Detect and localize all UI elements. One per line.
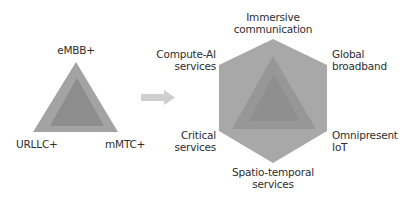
label-global-broadband: Global broadband [332,48,387,72]
label-spatio-temporal-services: Spatio-temporal services [223,166,323,190]
label-line: services [160,141,216,153]
label-line: Omnipresent [332,129,398,141]
label-line: communication [228,23,318,35]
label-mmtc-text: mMTC+ [105,138,145,150]
label-line: Compute-AI [140,48,216,60]
label-line: Global [332,48,387,60]
label-urllc-text: URLLC+ [16,138,58,150]
label-omnipresent-iot: Omnipresent IoT [332,129,398,153]
label-embb: eMBB+ [52,44,100,56]
label-line: Immersive [228,11,318,23]
label-line: services [223,178,323,190]
label-line: IoT [332,141,398,153]
label-compute-ai-services: Compute-AI services [140,48,216,72]
label-line: broadband [332,60,387,72]
arrow-right-icon [141,90,175,105]
label-mmtc: mMTC+ [105,138,145,150]
label-critical-services: Critical services [160,129,216,153]
label-embb-text: eMBB+ [52,44,100,56]
diagram-canvas [0,0,408,199]
label-line: Spatio-temporal [223,166,323,178]
label-line: services [140,60,216,72]
label-line: Critical [160,129,216,141]
label-urllc: URLLC+ [16,138,58,150]
label-immersive-communication: Immersive communication [228,11,318,35]
